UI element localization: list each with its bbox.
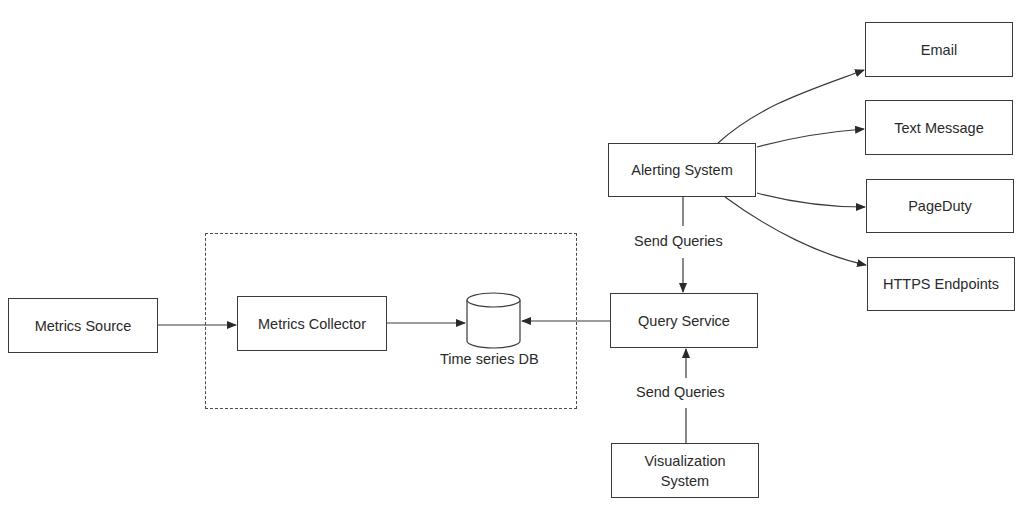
edge-alerting-to-text bbox=[757, 129, 864, 147]
alerting-system-label: Alerting System bbox=[631, 160, 733, 180]
metrics-source-label: Metrics Source bbox=[35, 316, 132, 336]
edge-alerting-to-email bbox=[718, 70, 864, 143]
visualization-system-label: Visualization System bbox=[632, 451, 738, 491]
visualization-system-node[interactable]: Visualization System bbox=[611, 443, 759, 498]
edge-label-visualization-send-queries: Send Queries bbox=[634, 384, 727, 400]
text-message-node[interactable]: Text Message bbox=[865, 100, 1013, 155]
alerting-system-node[interactable]: Alerting System bbox=[608, 143, 756, 197]
email-node[interactable]: Email bbox=[865, 22, 1013, 77]
edge-label-alerting-send-queries: Send Queries bbox=[632, 233, 725, 249]
metrics-source-node[interactable]: Metrics Source bbox=[8, 298, 158, 353]
pageduty-node[interactable]: PageDuty bbox=[866, 179, 1014, 233]
pageduty-label: PageDuty bbox=[908, 196, 972, 216]
metrics-collector-label: Metrics Collector bbox=[258, 314, 366, 334]
https-endpoints-node[interactable]: HTTPS Endpoints bbox=[867, 257, 1015, 311]
email-label: Email bbox=[921, 40, 957, 60]
metrics-collector-node[interactable]: Metrics Collector bbox=[237, 296, 387, 351]
query-service-label: Query Service bbox=[638, 311, 730, 331]
time-series-db-label: Time series DB bbox=[440, 351, 539, 367]
text-message-label: Text Message bbox=[894, 118, 983, 138]
https-endpoints-label: HTTPS Endpoints bbox=[883, 274, 999, 294]
edge-alerting-to-pageduty bbox=[757, 193, 865, 207]
edge-alerting-to-https bbox=[725, 197, 866, 265]
query-service-node[interactable]: Query Service bbox=[610, 293, 758, 348]
